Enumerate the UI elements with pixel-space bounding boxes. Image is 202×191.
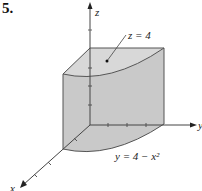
solid-region-diagram: z y x z = 4 y = 4 − x²	[0, 0, 202, 191]
leader-dot-icon	[106, 60, 109, 63]
y-arrow-icon	[190, 123, 197, 128]
top-surface-label: z = 4	[127, 29, 151, 41]
y-axis-label: y	[197, 119, 202, 131]
z-axis-label: z	[94, 6, 100, 18]
x-axis	[20, 125, 90, 188]
x-axis-label: x	[9, 182, 15, 191]
z-arrow-icon	[88, 2, 93, 9]
x-arrow-icon	[20, 180, 27, 188]
boundary-curve-label: y = 4 − x²	[114, 150, 160, 162]
